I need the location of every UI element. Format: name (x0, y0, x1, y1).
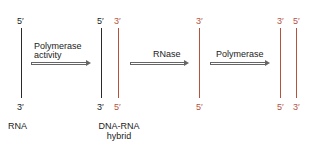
rnase-arrow (130, 62, 185, 65)
hybrid-new-3prime-label: 3′ (114, 16, 121, 26)
rna-3prime-label: 3′ (17, 102, 24, 112)
step1-label-line2: activity (34, 50, 62, 60)
hybrid-caption-line2: hybrid (96, 131, 142, 141)
polymerase-arrow (210, 62, 266, 65)
hybrid-new-strand (118, 28, 119, 98)
single-3prime-label: 3′ (196, 16, 203, 26)
polymerase-activity-arrow (31, 62, 87, 65)
hybrid-dna-5prime-label: 5′ (97, 16, 104, 26)
final-a-5prime-label: 5′ (277, 102, 284, 112)
hybrid-original-strand (101, 28, 102, 98)
final-b-3prime-label: 3′ (293, 102, 300, 112)
final-a-3prime-label: 3′ (277, 16, 284, 26)
single-strand (199, 28, 200, 98)
final-strand-a (280, 28, 281, 98)
rna-caption: RNA (8, 121, 27, 131)
final-strand-b (296, 28, 297, 98)
rna-strand (21, 28, 22, 98)
rna-5prime-label: 5′ (17, 16, 24, 26)
step2-label: RNase (153, 49, 181, 59)
hybrid-new-5prime-label: 5′ (114, 102, 121, 112)
hybrid-dna-3prime-label: 3′ (97, 102, 104, 112)
step3-label: Polymerase (216, 49, 264, 59)
single-5prime-label: 5′ (196, 102, 203, 112)
hybrid-caption-line1: DNA-RNA (96, 121, 142, 131)
final-b-5prime-label: 5′ (293, 16, 300, 26)
